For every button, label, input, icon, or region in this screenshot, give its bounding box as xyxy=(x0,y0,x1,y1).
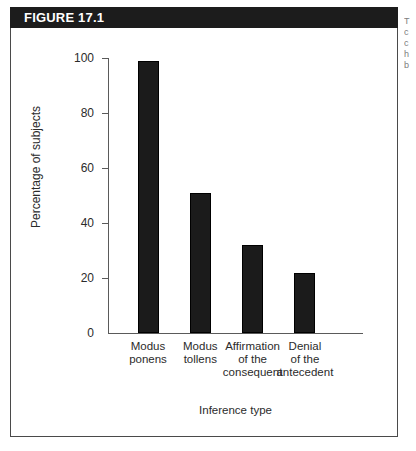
bar xyxy=(190,193,211,333)
y-tick-label: 100 xyxy=(68,52,94,64)
y-axis-title: Percentage of subjects xyxy=(29,87,43,247)
y-tick-label: 40 xyxy=(68,217,94,229)
y-tick-40: 40 xyxy=(0,223,108,224)
y-axis-line xyxy=(108,58,109,334)
x-category-label-line: antecedent xyxy=(262,366,348,379)
bar xyxy=(242,245,263,333)
y-tick-mark xyxy=(102,278,109,279)
x-category-label-line: Denial xyxy=(262,340,348,353)
y-tick-mark xyxy=(102,58,109,59)
y-tick-label: 80 xyxy=(68,107,94,119)
y-tick-0: 0 xyxy=(0,333,108,334)
y-tick-label: 20 xyxy=(68,272,94,284)
figure-page: FIGURE 17.1 020406080100 Percentage of s… xyxy=(0,0,416,451)
x-axis-title: Inference type xyxy=(108,404,363,416)
y-tick-mark xyxy=(102,223,109,224)
margin-line-3: c xyxy=(404,38,416,49)
bar xyxy=(138,61,159,333)
y-tick-mark xyxy=(102,168,109,169)
y-tick-60: 60 xyxy=(0,168,108,169)
bar xyxy=(294,273,315,334)
y-tick-mark xyxy=(102,113,109,114)
y-tick-label: 60 xyxy=(68,162,94,174)
margin-line-5: b xyxy=(404,60,416,71)
x-axis-line xyxy=(108,333,363,334)
x-category-label: Denialof theantecedent xyxy=(262,340,348,379)
margin-line-4: h xyxy=(404,49,416,60)
bar-chart: 020406080100 Percentage of subjects Modu… xyxy=(0,0,416,451)
margin-line-2: c xyxy=(404,27,416,38)
y-tick-label: 0 xyxy=(68,327,94,339)
margin-cutoff-text: T c c h b xyxy=(404,16,416,71)
y-tick-100: 100 xyxy=(0,58,108,59)
margin-line-1: T xyxy=(404,16,416,27)
y-tick-20: 20 xyxy=(0,278,108,279)
x-category-label-line: of the xyxy=(262,353,348,366)
y-tick-80: 80 xyxy=(0,113,108,114)
